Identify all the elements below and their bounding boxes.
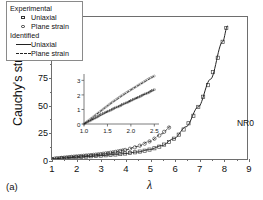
dashed-line-icon (15, 49, 31, 58)
x-tick-mark (101, 159, 102, 162)
x-tick-minor (114, 159, 115, 161)
x-tick-mark (249, 159, 250, 162)
legend-label-exp-uniaxial: Uniaxial (31, 13, 57, 22)
circle-marker-icon (15, 22, 31, 31)
legend-item-exp-uniaxial: Uniaxial (10, 13, 79, 22)
y-tick-label: 75 (38, 73, 48, 83)
y-tick-minor (50, 147, 52, 148)
x-tick-label: 9 (246, 163, 251, 174)
y-tick-mark (49, 78, 52, 79)
x-tick-label: 4 (123, 163, 128, 174)
x-tick-minor (187, 159, 188, 161)
legend-group-identified: Identified (10, 31, 79, 40)
x-tick-label: 5 (148, 163, 153, 174)
y-tick-label: 0 (43, 156, 48, 166)
x-tick-minor (237, 159, 238, 161)
x-tick-label: 1 (49, 163, 54, 174)
x-tick-minor (163, 159, 164, 161)
square-marker-icon (15, 13, 31, 22)
legend-label-exp-plane-strain: Plane strain (31, 22, 69, 31)
x-tick-label: 8 (222, 163, 227, 174)
inset-x-tick-label: 2.0 (127, 127, 136, 134)
x-tick-mark (175, 159, 176, 162)
x-tick-minor (64, 159, 65, 161)
legend-box: Experimental Uniaxial Plane strain Ident… (6, 1, 83, 61)
sample-label: NR0 (237, 118, 254, 128)
x-tick-mark (224, 159, 225, 162)
x-tick-minor (212, 159, 213, 161)
legend-label-id-uniaxial: Uniaxial (31, 40, 57, 49)
x-tick-mark (151, 159, 152, 162)
inset-x-tick-label: 2.5 (150, 127, 159, 134)
figure-panel: Cauchy's stress [MPa] 0255075100125 1234… (0, 0, 263, 200)
inset-x-tick-label: 1.0 (80, 127, 89, 134)
x-tick-label: 6 (172, 163, 177, 174)
y-tick-minor (50, 119, 52, 120)
y-tick-label: 50 (38, 101, 48, 111)
x-axis-title: λ (51, 178, 248, 193)
x-tick-minor (138, 159, 139, 161)
inset-plot: 01231.01.52.02.5 (69, 72, 161, 136)
x-tick-mark (77, 159, 78, 162)
x-tick-label: 3 (99, 163, 104, 174)
legend-item-id-uniaxial: Uniaxial (10, 40, 79, 49)
inset-y-tick-label: 2 (77, 91, 80, 98)
x-tick-mark (52, 159, 53, 162)
legend-label-id-plane-strain: Plane strain (31, 49, 69, 58)
y-tick-minor (50, 92, 52, 93)
panel-tag: (a) (6, 181, 18, 192)
inset-y-tick-label: 1 (77, 106, 80, 113)
inset-x-tick-label: 1.5 (103, 127, 112, 134)
y-tick-label: 25 (38, 128, 48, 138)
inset-y-tick-label: 3 (77, 77, 80, 84)
x-tick-minor (89, 159, 90, 161)
legend-group-experimental: Experimental (10, 4, 79, 13)
legend-item-exp-plane-strain: Plane strain (10, 22, 79, 31)
y-tick-mark (49, 133, 52, 134)
x-tick-label: 7 (197, 163, 202, 174)
x-tick-label: 2 (74, 163, 79, 174)
x-tick-mark (126, 159, 127, 162)
solid-line-icon (15, 40, 31, 49)
legend-item-id-plane-strain: Plane strain (10, 49, 79, 58)
y-tick-mark (49, 106, 52, 107)
x-tick-mark (200, 159, 201, 162)
y-tick-minor (50, 64, 52, 65)
